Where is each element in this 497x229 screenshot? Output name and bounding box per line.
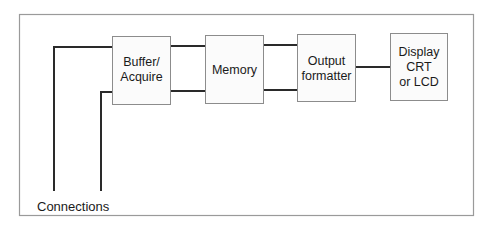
block-buffer-acquire: Buffer/ Acquire (113, 37, 171, 105)
block-output-label-line2: formatter (301, 69, 351, 83)
block-diagram: Buffer/ Acquire Memory Output formatter … (0, 0, 497, 229)
block-buffer-label-line1: Buffer/ (123, 55, 160, 69)
block-display-label-line3: or LCD (399, 75, 439, 89)
connection-wire-1 (54, 47, 112, 191)
block-memory-label: Memory (212, 63, 258, 77)
block-output-rect (298, 35, 356, 102)
connection-wire-2 (101, 92, 112, 191)
block-memory: Memory (206, 36, 264, 104)
block-display-label-line1: Display (399, 45, 441, 59)
block-buffer-label-line2: Acquire (120, 70, 162, 84)
block-display: Display CRT or LCD (391, 34, 448, 101)
block-output-label-line1: Output (308, 54, 346, 68)
block-display-label-line2: CRT (406, 60, 432, 74)
connections-label: Connections (37, 199, 110, 214)
block-output-formatter: Output formatter (298, 35, 356, 102)
